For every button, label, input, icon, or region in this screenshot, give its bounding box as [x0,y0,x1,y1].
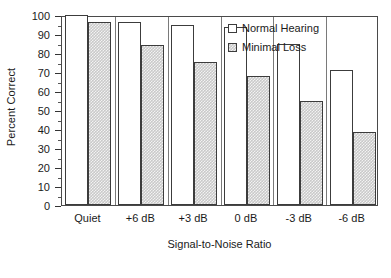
bar-minimal-loss [353,132,376,205]
x-axis-tick-labels: Quiet+6 dB+3 dB0 dB-3 dB-6 dB [61,212,378,228]
y-axis-tick-label: 30 [38,144,50,155]
bar-chart-figure: Percent Correct 0102030405060708090100 N… [0,0,391,278]
x-axis-tick-label: -3 dB [286,212,312,225]
y-axis-tick-labels: 0102030405060708090100 [22,16,52,206]
x-axis-tick-label: Quiet [74,212,100,225]
y-axis-title: Percent Correct [0,0,22,213]
group-separator [115,17,116,205]
y-axis-tick-label: 20 [38,163,50,174]
x-axis-tick-label: +6 dB [126,212,155,225]
y-axis-tick-label: 80 [38,49,50,60]
bar-minimal-loss [141,45,164,205]
bar-minimal-loss [194,62,217,205]
x-axis-title: Signal-to-Noise Ratio [61,238,378,250]
bar-minimal-loss [300,101,323,205]
y-axis-tick-label: 10 [38,182,50,193]
y-axis-tick-label: 60 [38,87,50,98]
y-axis-title-text: Percent Correct [5,67,17,146]
x-axis-tick-label: +3 dB [179,212,208,225]
group-separator [168,17,169,205]
bar-normal-hearing [65,15,88,205]
y-axis-tick-marks [52,16,61,206]
legend-label-normal-hearing: Normal Hearing [242,22,319,34]
y-axis-tick-label: 90 [38,30,50,41]
bar-minimal-loss [247,76,270,205]
y-axis-tick-label: 0 [44,201,50,212]
group-separator [221,17,222,205]
x-axis-tick-label: 0 dB [235,212,258,225]
y-axis-tick-label: 100 [32,11,50,22]
bar-minimal-loss [88,22,111,205]
y-axis-tick-label: 70 [38,68,50,79]
bar-normal-hearing [330,70,353,205]
y-axis-major-tick [55,206,61,207]
y-axis-tick-label: 50 [38,106,50,117]
y-axis-tick-label: 40 [38,125,50,136]
legend-label-minimal-loss: Minimal Loss [242,41,306,53]
bar-normal-hearing [277,44,300,206]
bar-normal-hearing [171,25,194,206]
legend-swatch-minimal-loss-icon [228,43,237,52]
legend-item-minimal-loss: Minimal Loss [228,39,368,55]
chart-legend: Normal Hearing Minimal Loss [228,20,368,58]
legend-item-normal-hearing: Normal Hearing [228,20,368,36]
bar-normal-hearing [118,22,141,205]
legend-swatch-normal-hearing-icon [228,24,237,33]
x-axis-tick-label: -6 dB [338,212,364,225]
